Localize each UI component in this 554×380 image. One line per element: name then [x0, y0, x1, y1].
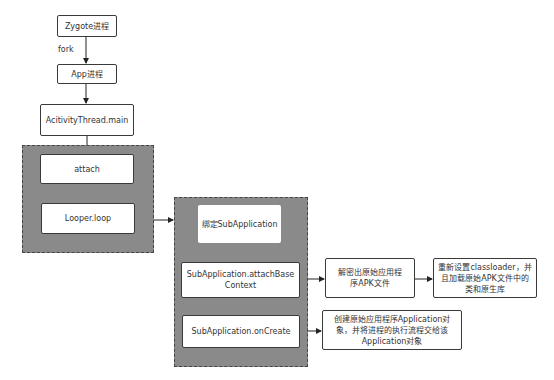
create-application-node: 创建原始应用程序Application对象，并将进程的执行流程交给该Applic…: [322, 310, 462, 350]
bind-subapplication-node: 绑定SubApplication: [198, 205, 281, 243]
zygote-process-node: Zygote进程: [57, 15, 117, 37]
attach-base-context-label: SubApplication.attachBaseContext: [185, 269, 296, 291]
activity-thread-node: AcitivityThread.main: [40, 104, 134, 136]
fork-edge-label: fork: [58, 45, 74, 54]
activity-thread-label: AcitivityThread.main: [46, 115, 129, 126]
bind-sub-label: 绑定SubApplication: [202, 219, 278, 230]
attach-node: attach: [40, 154, 134, 184]
attach-label: attach: [74, 164, 100, 175]
reset-classloader-label: 重新设置classloader，并且加载原始APK文件中的类和原生库: [438, 262, 532, 295]
on-create-node: SubApplication.onCreate: [182, 315, 300, 348]
looper-loop-node: Looper.loop: [41, 203, 135, 234]
on-create-label: SubApplication.onCreate: [191, 326, 290, 337]
zygote-label: Zygote进程: [65, 21, 109, 32]
looper-label: Looper.loop: [65, 213, 111, 224]
decrypt-apk-node: 解密出原始应用程序APK文件: [325, 258, 415, 298]
attach-base-context-node: SubApplication.attachBaseContext: [181, 262, 300, 298]
app-label: App进程: [71, 69, 103, 80]
app-process-node: App进程: [57, 64, 117, 84]
decrypt-label: 解密出原始应用程序APK文件: [336, 267, 404, 289]
create-app-label: 创建原始应用程序Application对象，并将进程的执行流程交给该Applic…: [326, 314, 458, 347]
reset-classloader-node: 重新设置classloader，并且加载原始APK文件中的类和原生库: [433, 258, 537, 298]
